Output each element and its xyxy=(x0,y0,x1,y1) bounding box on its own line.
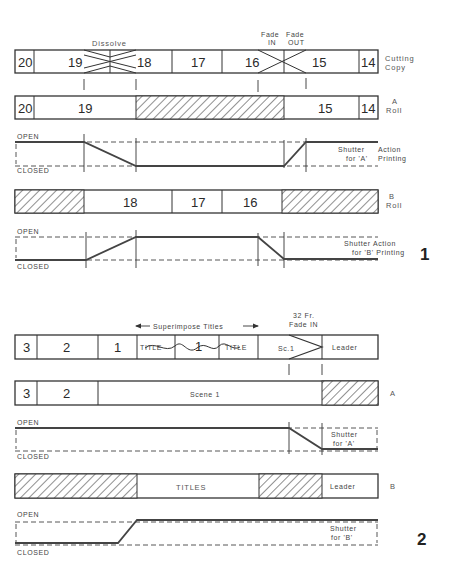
shutter-a-caption-4: Printing xyxy=(378,155,407,163)
b-seg-16: 16 xyxy=(243,195,257,210)
cc-seg-19: 19 xyxy=(68,55,82,70)
fade-in-label-1: Fade xyxy=(261,31,279,38)
fade-out-label-2: OUT xyxy=(288,39,305,46)
shutter-b2-caption-1: Shutter xyxy=(330,525,357,532)
a-roll-label-2: Roll xyxy=(386,106,402,115)
open-label: OPEN xyxy=(17,511,39,518)
open-label: OPEN xyxy=(17,419,39,426)
cutting-copy-label-2: Copy xyxy=(385,63,406,72)
fig1-b-roll-strip: 18 17 16 B Roll xyxy=(15,190,402,213)
closed-label: CLOSED xyxy=(17,263,49,270)
cutting-copy-label-1: Cutting xyxy=(385,54,414,63)
shutter-a-caption-3: Action xyxy=(378,146,401,153)
cc-seg-15: 15 xyxy=(312,55,326,70)
cc2-title-b: TITLE xyxy=(225,344,247,351)
closed-label: CLOSED xyxy=(17,453,49,460)
open-label: OPEN xyxy=(17,133,39,140)
fade-in-label-2: IN xyxy=(268,39,276,46)
a-roll-label: A xyxy=(390,389,396,398)
cc-seg-20: 20 xyxy=(18,55,32,70)
b-roll-label: B xyxy=(390,482,396,491)
cc2-sc1: Sc.1 xyxy=(278,345,294,352)
ab-roll-printing-diagram: Dissolve Fade IN Fade OUT 20 19 18 17 1 xyxy=(0,0,449,573)
fig2-cutting-copy-strip: 32 Fr. Fade IN Superimpose Titles 3 2 1 … xyxy=(15,312,378,359)
a-roll-label-1: A xyxy=(392,97,398,106)
cc2-seg-1: 1 xyxy=(114,340,121,355)
fig1-cutting-copy-strip: Dissolve Fade IN Fade OUT 20 19 18 17 1 xyxy=(15,31,414,73)
b2-leader: Leader xyxy=(330,483,355,490)
cc2-seg-1b: 1 xyxy=(195,339,202,354)
fig2-sync-ticks xyxy=(289,364,322,375)
shutter-b-caption-1: Shutter Action xyxy=(344,240,396,247)
a-seg-15: 15 xyxy=(318,101,332,116)
shutter-b2-caption-2: for 'B' xyxy=(331,534,353,541)
fig1-shutter-a-graph: OPEN CLOSED Shutter for 'A' Action Print… xyxy=(15,133,407,174)
fig1-sync-ticks xyxy=(84,78,306,92)
a2-seg-3: 3 xyxy=(23,386,30,401)
figure-number-2: 2 xyxy=(417,530,426,549)
cc2-title-a: TITLE xyxy=(140,344,162,351)
a2-scene1: Scene 1 xyxy=(190,391,220,398)
fig2-shutter-a-graph: OPEN CLOSED Shutter for 'A' xyxy=(15,419,378,460)
a-seg-14: 14 xyxy=(361,101,375,116)
fig2-shutter-b-graph: OPEN CLOSED Shutter for 'B' xyxy=(15,511,378,556)
fig2-a-roll-strip: 3 2 Scene 1 A xyxy=(15,381,396,405)
closed-label: CLOSED xyxy=(17,167,49,174)
shutter-a-caption-2: for 'A' xyxy=(346,155,368,162)
shutter-a2-caption-1: Shutter xyxy=(331,431,358,438)
a2-seg-2: 2 xyxy=(63,386,70,401)
fig1-a-roll-strip: 20 19 15 14 A Roll xyxy=(15,96,402,119)
fade-label-1: 32 Fr. xyxy=(293,312,315,319)
b2-titles: TITLES xyxy=(176,483,206,492)
cc-seg-16: 16 xyxy=(245,55,259,70)
dissolve-label: Dissolve xyxy=(92,39,127,48)
fig1-shutter-b-graph: OPEN CLOSED Shutter Action for 'B' Print… xyxy=(15,228,405,270)
superimpose-label: Superimpose Titles xyxy=(153,323,223,331)
figure-2: 32 Fr. Fade IN Superimpose Titles 3 2 1 … xyxy=(15,312,426,556)
cc2-leader: Leader xyxy=(332,344,357,351)
b-seg-17: 17 xyxy=(191,195,205,210)
closed-label: CLOSED xyxy=(17,549,49,556)
fade-out-label-1: Fade xyxy=(286,31,304,38)
open-label: OPEN xyxy=(17,228,39,235)
fade-label-2: Fade IN xyxy=(289,321,318,328)
cc-seg-17: 17 xyxy=(191,55,205,70)
a-seg-20: 20 xyxy=(18,101,32,116)
b-roll-label-2: Roll xyxy=(386,201,402,210)
b-roll-label-1: B xyxy=(389,192,395,201)
cc-seg-14: 14 xyxy=(361,55,375,70)
b-seg-18: 18 xyxy=(123,195,137,210)
a-seg-19: 19 xyxy=(78,101,92,116)
cc2-seg-2: 2 xyxy=(63,340,70,355)
cc-seg-18: 18 xyxy=(137,55,151,70)
cc2-seg-3: 3 xyxy=(23,340,30,355)
fig2-b-roll-strip: TITLES Leader B xyxy=(15,474,396,498)
shutter-a2-caption-2: for 'A' xyxy=(333,440,355,447)
figure-number-1: 1 xyxy=(420,245,429,264)
figure-1: Dissolve Fade IN Fade OUT 20 19 18 17 1 xyxy=(15,31,429,270)
shutter-b-caption-2: for 'B' Printing xyxy=(352,249,405,257)
shutter-a-caption-1: Shutter xyxy=(338,146,365,153)
